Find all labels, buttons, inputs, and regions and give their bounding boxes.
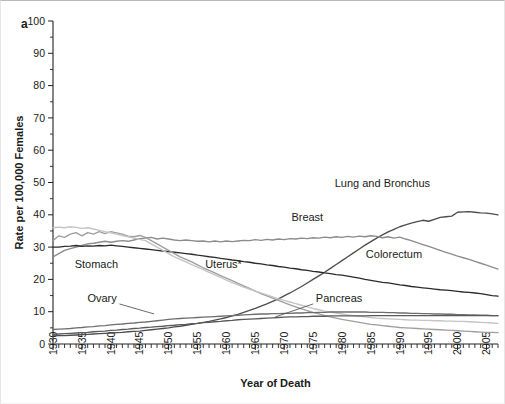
x-axis-title: Year of Death: [240, 377, 311, 389]
x-tick-label: 1970: [278, 331, 290, 355]
cancer-mortality-line-chart: 0102030405060708090100Rate per 100,000 F…: [1, 1, 505, 404]
stomach-label: Stomach: [75, 258, 118, 270]
x-tick-label: 1950: [162, 331, 174, 355]
y-tick-label: 80: [33, 79, 45, 91]
y-tick-label: 60: [33, 144, 45, 156]
x-tick-label: 1930: [47, 331, 59, 355]
series-line-colorectum: [53, 245, 498, 296]
y-tick-label: 30: [33, 241, 45, 253]
x-tick-label: 1990: [394, 331, 406, 355]
figure-panel: 0102030405060708090100Rate per 100,000 F…: [0, 0, 505, 404]
x-tick-label: 1995: [422, 331, 434, 355]
x-tick-label: 2005: [480, 331, 492, 355]
ovary-label-leader: [119, 304, 154, 314]
x-tick-label: 1945: [133, 331, 145, 355]
y-axis-title: Rate per 100,000 Females: [13, 116, 25, 250]
x-tick-label: 1940: [105, 331, 117, 355]
series-line-breast: [53, 236, 498, 269]
series-line-pancreas: [53, 316, 498, 335]
pancreas-label: Pancreas: [316, 292, 363, 304]
y-tick-label: 50: [33, 176, 45, 188]
y-tick-label: 20: [33, 273, 45, 285]
x-tick-label: 1955: [191, 331, 203, 355]
uterus-label: Uterus*: [205, 258, 242, 270]
colorectum-label: Colorectum: [366, 248, 422, 260]
x-tick-label: 2000: [451, 331, 463, 355]
panel-label: a: [21, 17, 28, 31]
y-tick-label: 90: [33, 47, 45, 59]
y-tick-label: 0: [39, 338, 45, 350]
y-tick-label: 10: [33, 305, 45, 317]
x-tick-label: 1960: [220, 331, 232, 355]
ovary-label: Ovary: [87, 292, 117, 304]
y-tick-label: 100: [27, 15, 45, 27]
y-tick-label: 70: [33, 112, 45, 124]
lung-label: Lung and Bronchus: [335, 177, 431, 189]
breast-label: Breast: [291, 211, 323, 223]
x-tick-label: 1965: [249, 331, 261, 355]
x-tick-label: 1985: [365, 331, 377, 355]
x-tick-label: 1975: [307, 331, 319, 355]
y-tick-label: 40: [33, 208, 45, 220]
x-tick-label: 1980: [336, 331, 348, 355]
